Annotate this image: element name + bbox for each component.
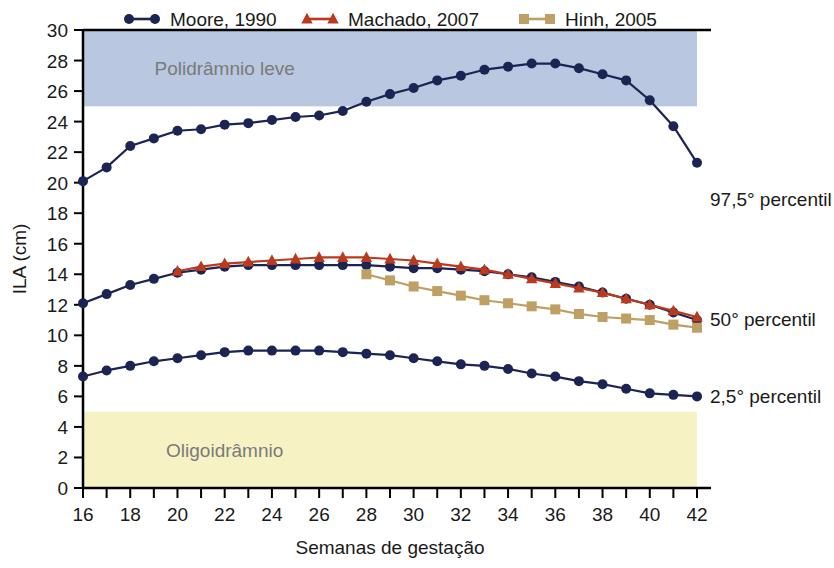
data-point-circle [550, 372, 560, 382]
y-tick-label: 0 [57, 478, 68, 499]
data-point-square [645, 315, 655, 325]
data-point-circle [692, 391, 702, 401]
x-tick-label: 24 [261, 504, 283, 525]
x-tick-label: 38 [592, 504, 613, 525]
data-point-circle [102, 365, 112, 375]
data-point-circle [621, 384, 631, 394]
legend-label: Moore, 1990 [170, 9, 277, 30]
x-tick-label: 22 [214, 504, 235, 525]
chart-legend: Moore, 1990Machado, 2007Hinh, 2005 [124, 9, 657, 30]
x-tick-label: 26 [309, 504, 330, 525]
data-point-circle [409, 353, 419, 363]
y-tick-label: 20 [47, 173, 68, 194]
data-point-square [692, 323, 702, 333]
chart-figure: 0246810121416182022242628301618202224262… [0, 0, 834, 568]
legend-marker-circle [124, 14, 134, 24]
data-point-circle [503, 62, 513, 72]
data-point-circle [314, 110, 324, 120]
data-point-circle [574, 376, 584, 386]
data-point-square [527, 301, 537, 311]
data-point-circle [78, 298, 88, 308]
x-tick-label: 18 [120, 504, 141, 525]
data-point-circle [692, 158, 702, 168]
y-tick-label: 16 [47, 234, 68, 255]
data-point-circle [668, 390, 678, 400]
data-point-circle [598, 69, 608, 79]
data-point-circle [361, 349, 371, 359]
data-point-circle [267, 346, 277, 356]
data-point-circle [172, 126, 182, 136]
data-point-circle [125, 361, 135, 371]
data-point-circle [361, 97, 371, 107]
legend-marker-square [545, 14, 555, 24]
data-point-circle [220, 347, 230, 357]
x-tick-label: 20 [167, 504, 188, 525]
data-point-square [456, 291, 466, 301]
legend-label: Hinh, 2005 [565, 9, 657, 30]
y-tick-label: 10 [47, 325, 68, 346]
data-point-circle [243, 346, 253, 356]
data-point-circle [574, 63, 584, 73]
data-point-circle [243, 118, 253, 128]
data-point-circle [409, 83, 419, 93]
x-tick-label: 30 [403, 504, 424, 525]
data-point-circle [196, 124, 206, 134]
data-point-circle [479, 65, 489, 75]
data-point-circle [291, 346, 301, 356]
data-point-circle [503, 364, 513, 374]
y-tick-label: 2 [57, 447, 68, 468]
x-tick-label: 34 [498, 504, 520, 525]
data-point-circle [314, 346, 324, 356]
data-point-square [550, 304, 560, 314]
y-tick-label: 8 [57, 356, 68, 377]
data-point-circle [267, 115, 277, 125]
data-point-circle [149, 274, 159, 284]
data-point-square [668, 320, 678, 330]
x-tick-label: 32 [450, 504, 471, 525]
y-tick-label: 22 [47, 142, 68, 163]
x-tick-label: 42 [686, 504, 707, 525]
data-point-square [385, 275, 395, 285]
data-point-circle [172, 353, 182, 363]
amniotic-fluid-index-line-chart: 0246810121416182022242628301618202224262… [0, 0, 834, 568]
data-point-circle [338, 106, 348, 116]
data-point-circle [668, 121, 678, 131]
x-axis-title: Semanas de gestação [295, 537, 484, 558]
y-axis-title: ILA (cm) [9, 224, 30, 295]
y-tick-label: 14 [47, 264, 69, 285]
band-label-oligohydramnios: Oligoidrâmnio [166, 440, 283, 461]
y-tick-label: 24 [47, 112, 69, 133]
data-point-circle [149, 356, 159, 366]
x-tick-label: 16 [72, 504, 93, 525]
annotation-p25: 2,5° percentil [710, 386, 821, 407]
data-point-circle [598, 379, 608, 389]
data-point-square [503, 298, 513, 308]
data-point-circle [102, 289, 112, 299]
x-tick-label: 40 [639, 504, 660, 525]
legend-label: Machado, 2007 [348, 9, 479, 30]
y-tick-label: 6 [57, 386, 68, 407]
x-tick-label: 28 [356, 504, 377, 525]
x-tick-label: 36 [545, 504, 566, 525]
data-point-square [432, 286, 442, 296]
y-tick-label: 28 [47, 51, 68, 72]
data-point-circle [78, 176, 88, 186]
data-point-circle [432, 356, 442, 366]
data-point-square [409, 281, 419, 291]
y-tick-label: 18 [47, 203, 68, 224]
data-point-circle [456, 71, 466, 81]
data-point-circle [385, 350, 395, 360]
data-point-circle [645, 95, 655, 105]
data-point-circle [338, 347, 348, 357]
data-point-circle [78, 372, 88, 382]
y-tick-label: 4 [57, 417, 68, 438]
annotation-p975: 97,5° percentil [710, 189, 832, 210]
data-point-square [574, 309, 584, 319]
y-tick-label: 30 [47, 20, 68, 41]
data-point-circle [149, 133, 159, 143]
data-point-circle [125, 141, 135, 151]
data-point-circle [527, 59, 537, 69]
data-point-square [621, 314, 631, 324]
data-point-circle [550, 59, 560, 69]
data-point-circle [621, 75, 631, 85]
